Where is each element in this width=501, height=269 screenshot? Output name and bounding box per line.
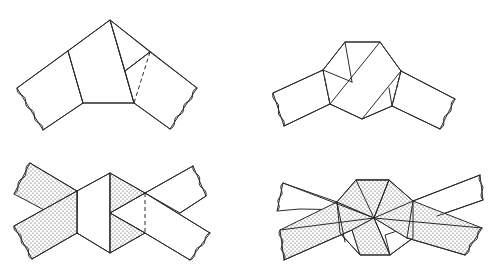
knot-diagram (0, 0, 501, 269)
step-3-panel (14, 163, 210, 260)
step-2-panel (273, 42, 455, 129)
ribbon-face-front (77, 173, 110, 253)
step-4-panel (277, 175, 483, 260)
ribbon-face-front (125, 52, 197, 129)
diagram-svg (0, 0, 501, 269)
ribbon-face-front (392, 71, 455, 129)
step-1-panel (17, 20, 197, 130)
